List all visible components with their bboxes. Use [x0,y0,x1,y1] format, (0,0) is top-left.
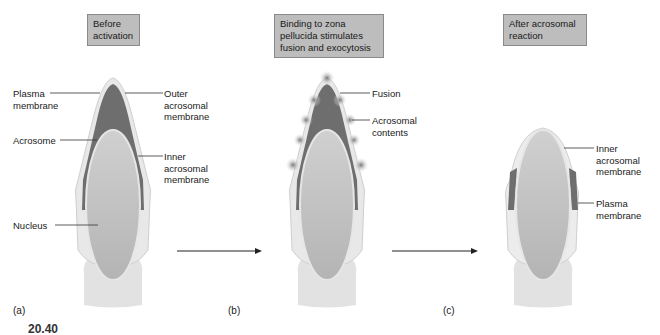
sperm-head-fusion [285,70,369,308]
nucleus-a [86,130,140,280]
nucleus-b [300,130,354,280]
stage-box-after-reaction: After acrosomal reaction [503,14,587,46]
figure-caption-number: 20.40 [28,322,58,335]
label-nucleus: Nucleus [13,220,47,232]
arrow-a-to-b [177,248,262,254]
label-acrosome: Acrosome [13,135,56,147]
arrow-b-to-c [392,248,478,254]
stage-box-text: After acrosomal reaction [509,18,576,41]
stage-box-before-activation: Before activation [87,14,140,46]
label-inner-acrosomal-membrane-a: Inner acrosomal membrane [164,151,209,186]
label-plasma-membrane-a: Plasma membrane [13,88,58,111]
panel-letter-c: (c) [443,305,455,316]
panel-letter-b: (b) [228,305,240,316]
label-inner-acrosomal-membrane-c: Inner acrosomal membrane [596,143,641,178]
stage-box-text: Binding to zona pellucida stimulates fus… [280,18,371,53]
stage-box-text: Before activation [93,18,133,41]
label-fusion: Fusion [372,88,401,100]
panel-letter-a: (a) [13,305,25,316]
stage-box-binding: Binding to zona pellucida stimulates fus… [274,14,384,58]
label-plasma-membrane-c: Plasma membrane [596,198,641,221]
nucleus-c [516,130,570,280]
label-acrosomal-contents: Acrosomal contents [372,115,417,138]
label-outer-acrosomal-membrane: Outer acrosomal membrane [164,88,209,123]
sperm-head-before-activation [75,78,150,308]
sperm-head-after-reaction [506,128,579,308]
